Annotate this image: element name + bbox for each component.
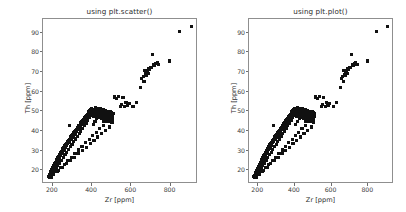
data-point <box>342 80 345 83</box>
data-point <box>350 53 353 56</box>
data-point <box>284 149 287 152</box>
x-tick-label: 800 <box>164 186 176 193</box>
data-point <box>49 176 52 179</box>
data-point <box>109 110 112 113</box>
y-tick-mark <box>40 91 43 92</box>
data-point <box>291 138 294 141</box>
plot-panel-plot: using plt.plot() Zr [ppm] Th [ppm] 20304… <box>248 18 393 183</box>
data-point <box>269 162 272 165</box>
y-tick-mark <box>40 32 43 33</box>
data-point <box>91 134 94 137</box>
data-point <box>295 139 298 142</box>
data-point <box>104 129 107 132</box>
x-tick-mark <box>331 183 332 186</box>
data-point <box>96 135 99 138</box>
data-point <box>310 125 313 128</box>
data-point <box>328 102 331 105</box>
y-tick-label: 30 <box>31 146 39 153</box>
data-point <box>65 162 68 165</box>
data-point <box>135 101 138 104</box>
y-tick-label: 40 <box>31 126 39 133</box>
data-point <box>95 131 98 134</box>
data-point <box>110 121 113 124</box>
y-axis-label-left: Th [ppm] <box>24 68 32 128</box>
y-tick-label: 70 <box>237 68 245 75</box>
data-point <box>88 116 91 119</box>
data-point <box>278 137 281 140</box>
data-point <box>266 166 269 169</box>
data-point <box>85 146 88 149</box>
data-point <box>257 173 260 176</box>
data-point <box>95 117 98 120</box>
x-tick-mark <box>130 183 131 186</box>
data-point <box>105 120 108 123</box>
data-point <box>291 116 294 119</box>
data-point <box>80 145 83 148</box>
y-axis-label-right: Th [ppm] <box>230 68 238 128</box>
data-point <box>288 146 291 149</box>
y-tick-label: 80 <box>31 48 39 55</box>
data-point <box>52 173 55 176</box>
data-point <box>298 117 301 120</box>
y-tick-mark <box>246 51 249 52</box>
data-point <box>281 148 284 151</box>
data-point <box>117 95 120 98</box>
data-point <box>255 176 258 179</box>
data-point <box>77 152 80 155</box>
data-point <box>268 153 271 156</box>
panel-title-scatter: using plt.scatter() <box>42 7 197 16</box>
data-point <box>291 142 294 145</box>
x-tick-label: 400 <box>85 186 97 193</box>
y-tick-mark <box>246 130 249 131</box>
data-point <box>121 96 124 99</box>
scatter-data-area-right <box>248 18 393 183</box>
data-point <box>124 101 127 104</box>
data-point <box>332 105 335 108</box>
data-point <box>92 123 95 126</box>
data-point <box>302 132 305 135</box>
x-tick-label: 600 <box>325 186 337 193</box>
y-tick-mark <box>40 169 43 170</box>
data-point <box>386 25 389 28</box>
data-point <box>284 127 287 130</box>
y-tick-label: 60 <box>237 87 245 94</box>
y-tick-mark <box>40 110 43 111</box>
data-point <box>178 30 181 33</box>
data-point <box>157 63 160 66</box>
data-point <box>106 115 109 118</box>
data-point <box>324 105 327 108</box>
data-point <box>304 124 307 127</box>
y-tick-mark <box>246 71 249 72</box>
data-point <box>322 96 325 99</box>
data-point <box>339 86 342 89</box>
y-tick-label: 40 <box>237 126 245 133</box>
y-tick-label: 60 <box>31 87 39 94</box>
data-point <box>301 112 304 115</box>
data-point <box>67 148 70 151</box>
data-point <box>58 161 61 164</box>
data-point <box>300 127 303 130</box>
data-point <box>303 109 306 112</box>
data-point <box>307 120 310 123</box>
data-point <box>335 101 338 104</box>
data-point <box>102 120 105 123</box>
x-tick-mark <box>367 183 368 186</box>
data-point <box>70 156 73 159</box>
y-tick-label: 20 <box>31 166 39 173</box>
x-axis-label-left: Zr [ppm] <box>42 196 197 204</box>
data-point <box>150 66 153 69</box>
data-point <box>277 152 280 155</box>
data-point <box>299 135 302 138</box>
y-tick-mark <box>246 150 249 151</box>
data-point <box>272 124 275 127</box>
data-point <box>84 141 87 144</box>
data-point <box>294 134 297 137</box>
data-point <box>273 159 276 162</box>
data-point <box>375 30 378 33</box>
data-point <box>311 110 314 113</box>
data-point <box>63 153 66 156</box>
x-tick-mark <box>294 183 295 186</box>
y-tick-label: 70 <box>31 68 39 75</box>
data-point <box>92 139 95 142</box>
data-point <box>294 123 297 126</box>
